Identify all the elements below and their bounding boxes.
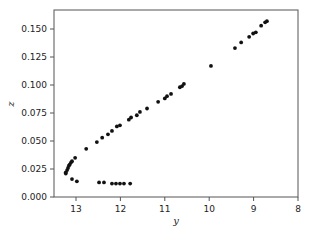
data-point — [95, 140, 99, 144]
y-tick-label: 0.150 — [21, 24, 47, 34]
data-point — [259, 24, 263, 28]
data-point — [254, 30, 258, 34]
data-point — [247, 35, 251, 39]
x-axis: 1312111098 — [70, 197, 301, 214]
y-tick-label: 0.000 — [21, 192, 47, 202]
y-tick-label: 0.075 — [21, 108, 47, 118]
y-tick-label: 0.100 — [21, 80, 47, 90]
x-tick-label: 13 — [70, 204, 81, 214]
x-axis-label: y — [172, 215, 179, 226]
data-point — [106, 132, 110, 136]
data-point — [75, 179, 79, 183]
data-point — [233, 46, 237, 50]
data-point — [138, 110, 142, 114]
data-point — [70, 177, 74, 181]
y-axis-label: z — [5, 101, 16, 108]
data-point — [239, 41, 243, 45]
data-point — [182, 82, 186, 86]
scatter-chart: 0.0000.0250.0500.0750.1000.1250.150 1312… — [0, 0, 312, 234]
data-point — [100, 136, 104, 140]
plot-frame — [54, 10, 298, 197]
x-tick-label: 9 — [251, 204, 257, 214]
data-point — [114, 182, 118, 186]
y-axis: 0.0000.0250.0500.0750.1000.1250.150 — [21, 24, 54, 202]
data-point — [209, 64, 213, 68]
data-points — [64, 19, 269, 185]
data-point — [110, 182, 114, 186]
y-tick-label: 0.025 — [21, 164, 47, 174]
data-point — [156, 100, 160, 104]
data-point — [265, 19, 269, 23]
data-point — [165, 94, 169, 98]
data-point — [118, 123, 122, 127]
y-tick-label: 0.125 — [21, 52, 47, 62]
data-point — [64, 172, 68, 176]
data-point — [145, 107, 149, 111]
data-point — [84, 147, 88, 151]
data-point — [73, 156, 77, 160]
data-point — [70, 159, 74, 163]
data-point — [110, 129, 114, 133]
x-tick-label: 10 — [203, 204, 215, 214]
data-point — [102, 181, 106, 185]
data-point — [122, 182, 126, 186]
x-tick-label: 8 — [295, 204, 301, 214]
x-tick-label: 11 — [159, 204, 170, 214]
data-point — [128, 182, 132, 186]
data-point — [129, 116, 133, 120]
data-point — [135, 113, 139, 117]
data-point — [118, 182, 122, 186]
data-point — [169, 92, 173, 96]
data-point — [97, 181, 101, 185]
y-tick-label: 0.050 — [21, 136, 47, 146]
x-tick-label: 12 — [115, 204, 126, 214]
